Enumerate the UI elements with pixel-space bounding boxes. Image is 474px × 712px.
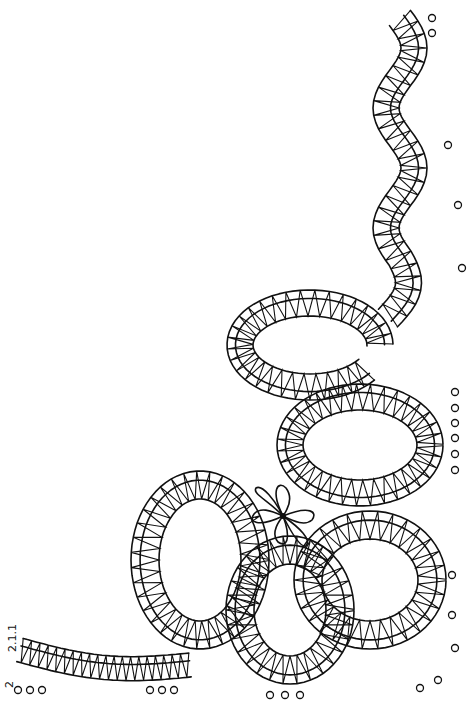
band-tail: [17, 638, 191, 680]
picot: [39, 687, 46, 694]
picot: [435, 677, 442, 684]
picot: [297, 692, 304, 699]
band-loop-upper: [227, 290, 393, 400]
picot: [147, 687, 154, 694]
band-loop-left: [131, 471, 269, 649]
picot: [445, 142, 452, 149]
lace-braid-bands: [17, 10, 446, 684]
band-vertical: [373, 10, 427, 326]
pair-count-label-bottom: 2: [3, 681, 16, 688]
picot: [459, 265, 466, 272]
picot: [429, 30, 436, 37]
picot: [452, 451, 459, 458]
picot: [171, 687, 178, 694]
picot: [159, 687, 166, 694]
picot: [452, 435, 459, 442]
picot: [449, 612, 456, 619]
picot: [449, 572, 456, 579]
picot: [267, 692, 274, 699]
pair-count-label-top: 2.1.1: [6, 624, 19, 652]
picot: [27, 687, 34, 694]
picot: [455, 202, 462, 209]
picot: [452, 645, 459, 652]
lace-pattern: [0, 0, 474, 712]
picot: [452, 420, 459, 427]
picot: [282, 692, 289, 699]
picot-loops: [15, 15, 466, 699]
band-loop-middle: [277, 384, 443, 506]
picot: [417, 685, 424, 692]
picot: [429, 15, 436, 22]
picot: [452, 389, 459, 396]
picot: [452, 405, 459, 412]
picot: [452, 467, 459, 474]
